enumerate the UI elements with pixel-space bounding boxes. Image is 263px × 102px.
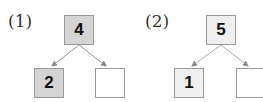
part-number-box: 1 [174,68,204,98]
problem-label: (2) [145,11,169,31]
problem-label: (1) [8,11,32,31]
answer-box[interactable] [95,68,125,98]
whole-number-box: 5 [206,15,236,45]
whole-number-box: 4 [64,15,94,45]
part-number-box: 2 [34,68,64,98]
answer-box[interactable] [236,68,263,98]
